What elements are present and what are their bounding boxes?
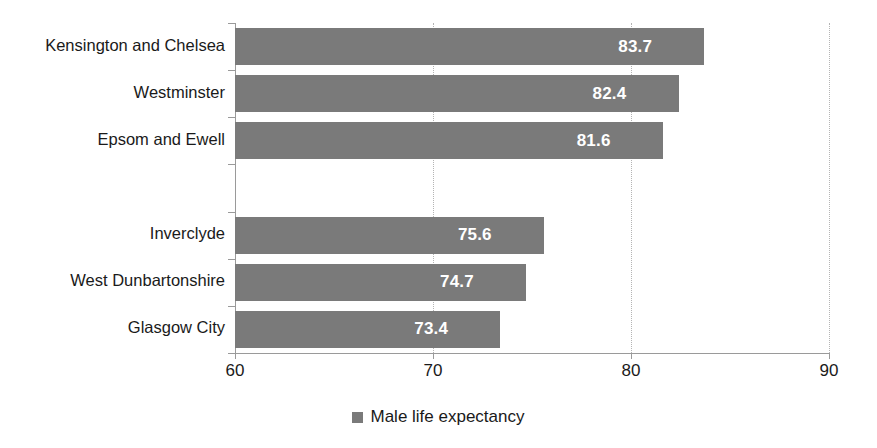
bar-value-label: 81.6	[577, 131, 611, 151]
y-tick-4	[228, 212, 235, 213]
y-tick-end	[228, 353, 235, 354]
bar-value-label: 74.7	[440, 272, 474, 292]
bar-glasgow-city[interactable]	[235, 311, 500, 348]
y-tick-0	[228, 23, 235, 24]
bar-row: 73.4	[235, 311, 829, 348]
legend-swatch-male-life-expectancy	[352, 412, 363, 423]
y-tick-5	[228, 259, 235, 260]
bar-row: 75.6	[235, 217, 829, 254]
bar-value-label: 82.4	[593, 84, 627, 104]
y-tick-1	[228, 70, 235, 71]
category-label-glasgow-city: Glasgow City	[5, 318, 235, 337]
bar-value-label: 75.6	[458, 225, 492, 245]
plot-area: 83.782.481.675.674.773.4	[235, 23, 829, 353]
category-label-inverclyde: Inverclyde	[5, 224, 235, 243]
x-tick-60	[235, 353, 236, 359]
category-label-column: Kensington and ChelseaWestminsterEpsom a…	[0, 23, 235, 353]
bar-row-blank	[235, 169, 829, 206]
gridline-90	[829, 23, 830, 353]
x-axis-label-80: 80	[622, 361, 641, 381]
legend-label: Male life expectancy	[370, 407, 524, 427]
bar-row: 81.6	[235, 122, 829, 159]
x-tick-80	[631, 353, 632, 359]
bar-row: 82.4	[235, 75, 829, 112]
bar-value-label: 73.4	[414, 319, 448, 339]
bar-row: 83.7	[235, 28, 829, 65]
bar-west-dunbartonshire[interactable]	[235, 264, 526, 301]
category-label-westminster: Westminster	[5, 83, 235, 102]
x-axis-label-90: 90	[820, 361, 839, 381]
x-axis-label-70: 70	[424, 361, 443, 381]
bar-chart: Kensington and ChelseaWestminsterEpsom a…	[0, 0, 877, 448]
y-tick-3	[228, 164, 235, 165]
bar-inverclyde[interactable]	[235, 217, 544, 254]
category-label-kensington-and-chelsea: Kensington and Chelsea	[5, 36, 235, 55]
x-axis-label-60: 60	[226, 361, 245, 381]
x-axis-line	[235, 353, 829, 354]
y-tick-6	[228, 306, 235, 307]
x-tick-70	[433, 353, 434, 359]
category-label-west-dunbartonshire: West Dunbartonshire	[5, 271, 235, 290]
x-tick-90	[829, 353, 830, 359]
chart-legend: Male life expectancy	[0, 407, 877, 427]
category-label-epsom-and-ewell: Epsom and Ewell	[5, 130, 235, 149]
bar-value-label: 83.7	[618, 37, 652, 57]
bar-row: 74.7	[235, 264, 829, 301]
y-tick-2	[228, 117, 235, 118]
